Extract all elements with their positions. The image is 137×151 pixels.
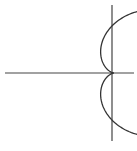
- cardioid-diagram: [0, 0, 137, 151]
